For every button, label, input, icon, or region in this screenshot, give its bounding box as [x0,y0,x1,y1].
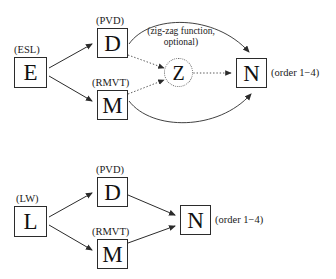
edge-m-to-n-arc [129,94,251,123]
node-letter-d-bottom: D [104,181,121,204]
annotation-zigzag: (zig-zag function, optional) [140,26,222,48]
node-box-m-bottom[interactable]: M [97,239,128,269]
node-letter-l: L [23,210,37,233]
node-letter-n-bottom: N [187,209,204,232]
node-box-e[interactable]: E [14,57,47,88]
node-letter-z: Z [172,63,184,83]
edge-m-to-n [128,226,175,243]
node-box-m-top[interactable]: M [97,90,128,120]
node-box-n-top[interactable]: N [236,58,267,88]
node-tag-pvd-bottom: (PVD) [96,165,124,176]
edge-e-to-d [49,44,92,68]
node-tag-pvd-top: (PVD) [96,16,124,27]
edge-d-to-n [128,195,175,215]
node-side-label-order-bottom: (order 1−4) [215,215,263,226]
node-tag-rmvt-top: (RMVT) [92,78,129,89]
annotation-zigzag-line2: optional) [140,37,222,48]
node-box-d-top[interactable]: D [97,28,128,58]
edge-l-to-m [49,225,92,250]
node-letter-m-bottom: M [102,243,122,266]
node-tag-rmvt-bottom: (RMVT) [92,227,129,238]
node-side-label-order-top: (order 1−4) [271,68,319,79]
edge-d-to-z [128,55,164,68]
node-box-n-bottom[interactable]: N [180,205,211,235]
figure-canvas: (ESL) E (PVD) D (RMVT) M Z N (order 1−4)… [0,0,336,279]
edge-l-to-d [49,193,92,217]
node-circle-z[interactable]: Z [164,58,193,87]
edge-m-to-z [128,80,164,94]
node-tag-esl: (ESL) [14,45,40,56]
node-letter-e: E [23,61,37,84]
annotation-zigzag-line1: (zig-zag function, [140,26,222,37]
node-letter-m-top: M [102,94,122,117]
node-tag-lw: (LW) [16,194,39,205]
node-box-d-bottom[interactable]: D [97,177,128,207]
node-letter-d-top: D [104,32,121,55]
edge-e-to-m [49,76,92,101]
node-letter-n-top: N [243,62,260,85]
node-box-l[interactable]: L [14,206,47,237]
